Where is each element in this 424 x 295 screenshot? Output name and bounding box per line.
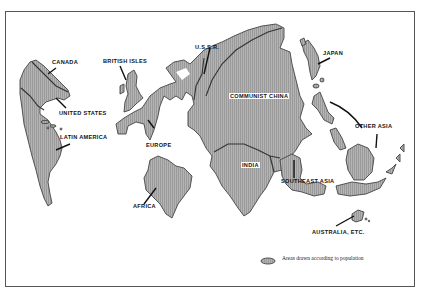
australia-island [368,220,370,222]
other-asia-island-chain [400,144,404,152]
other-asia-arrow-down [376,134,377,148]
other-asia-island-chain [386,164,396,174]
label-africa: AFRICA [133,203,156,209]
caribbean-island [47,127,49,129]
other-asia-large-island [346,144,374,180]
caribbean-island [41,120,49,123]
label-united-states: UNITED STATES [59,110,107,116]
label-ussr: U.S.S.R. [195,44,219,50]
label-japan: JAPAN [323,50,343,56]
indonesia-landmass [336,178,386,196]
label-canada: CANADA [52,59,78,65]
caribbean-island [50,125,56,128]
other-asia-island [330,128,346,150]
legend-swatch [261,258,275,264]
southeast-asia-landmass [280,154,326,196]
label-india: INDIA [241,162,260,168]
japan-island [320,78,324,82]
legend-text: Areas drawn according to population [282,255,364,261]
caribbean-island [60,128,62,130]
ireland-landmass [120,84,124,94]
label-australia: AUSTRALIA, ETC. [312,229,365,235]
label-other-asia: OTHER ASIA [355,123,392,129]
label-british-isles: BRITISH ISLES [103,58,147,64]
japan-island [300,38,306,46]
other-asia-island-chain [396,154,400,162]
japan-arrow [318,58,330,64]
british-isles-arrow [120,66,126,80]
label-southeast-asia: SOUTHEAST ASIA [281,178,334,184]
australia-arrow [336,216,354,226]
label-europe: EUROPE [146,142,171,148]
japan-landmass [302,40,320,80]
taiwan-island [313,84,319,88]
british-isles-landmass [124,70,143,112]
label-communist-china: COMMUNIST CHINA [229,93,289,99]
label-latin-america: LATIN AMERICA [60,134,107,140]
australia-island [365,218,367,220]
philippines-landmass [312,92,334,124]
americas-landmass [20,60,70,206]
